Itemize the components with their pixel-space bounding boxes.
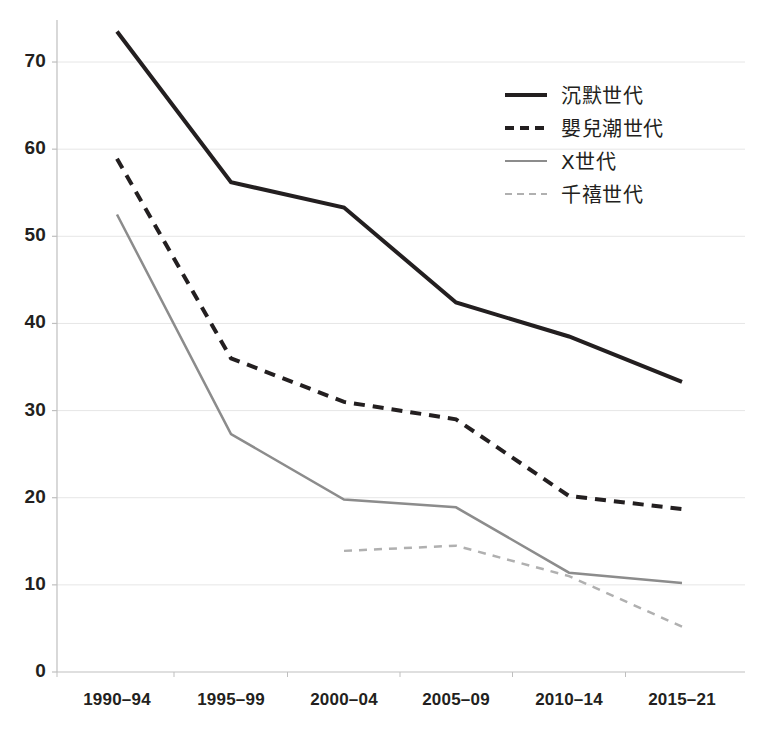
- y-tick-label: 30: [0, 399, 46, 421]
- x-tick-label: 2000–04: [279, 690, 409, 710]
- legend-item: X世代: [505, 144, 664, 177]
- x-tick-label: 2005–09: [391, 690, 521, 710]
- y-tick-label: 60: [0, 137, 46, 159]
- legend-item: 千禧世代: [505, 177, 664, 210]
- legend-label: X世代: [561, 146, 616, 175]
- legend-line-icon: [505, 88, 547, 102]
- legend-label: 沉默世代: [561, 80, 643, 109]
- y-tick-label: 10: [0, 573, 46, 595]
- x-tick-label: 1995–99: [166, 690, 296, 710]
- series-line-1: [117, 159, 682, 509]
- y-tick-label: 20: [0, 486, 46, 508]
- legend-line-icon: [505, 121, 547, 135]
- y-tick-label: 0: [0, 660, 46, 682]
- x-tick-label: 1990–94: [52, 690, 182, 710]
- legend-label: 嬰兒潮世代: [561, 113, 664, 142]
- legend-item: 沉默世代: [505, 78, 664, 111]
- legend-label: 千禧世代: [561, 179, 643, 208]
- legend-line-icon: [505, 187, 547, 201]
- legend-item: 嬰兒潮世代: [505, 111, 664, 144]
- x-tick-label: 2015–21: [617, 690, 747, 710]
- series-line-3: [344, 546, 682, 627]
- chart-legend: 沉默世代嬰兒潮世代X世代千禧世代: [505, 78, 664, 210]
- y-tick-label: 40: [0, 311, 46, 333]
- x-tick-label: 2010–14: [504, 690, 634, 710]
- legend-line-icon: [505, 154, 547, 168]
- series-line-2: [117, 215, 682, 584]
- line-chart: 706050403020100 1990–941995–992000–04200…: [0, 0, 767, 732]
- y-tick-label: 50: [0, 224, 46, 246]
- y-tick-label: 70: [0, 50, 46, 72]
